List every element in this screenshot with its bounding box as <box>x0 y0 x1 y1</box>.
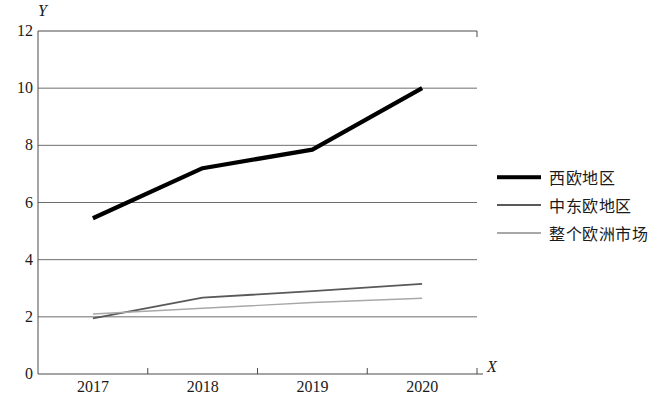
y-axis-title: Y <box>38 2 47 20</box>
y-tick-label-0: 0 <box>0 366 33 382</box>
legend-swatch-series-2 <box>497 198 541 212</box>
x-tick-label-2019: 2019 <box>272 378 352 396</box>
x-tick-label-2017: 2017 <box>53 378 133 396</box>
series-line-1 <box>93 88 422 218</box>
legend-label-series-1: 西欧地区 <box>549 165 615 189</box>
legend-swatch-series-3 <box>497 226 541 240</box>
data-series-layer <box>93 88 422 318</box>
legend-item-1[interactable]: 中东欧地区 <box>497 191 665 219</box>
y-tick-label-2: 2 <box>0 309 33 325</box>
y-tick-label-8: 8 <box>0 137 33 153</box>
legend-label-series-3: 整个欧洲市场 <box>549 221 648 245</box>
gridlines <box>38 88 477 317</box>
x-tick-label-2020: 2020 <box>382 378 462 396</box>
x-axis-title: X <box>487 358 497 376</box>
chart-legend: 西欧地区 中东欧地区 整个欧洲市场 <box>497 163 665 247</box>
y-tick-label-10: 10 <box>0 80 33 96</box>
x-tick-label-2018: 2018 <box>163 378 243 396</box>
y-tick-label-12: 12 <box>0 23 33 39</box>
legend-item-2[interactable]: 整个欧洲市场 <box>497 219 665 247</box>
legend-swatch-series-1 <box>497 170 541 184</box>
legend-label-series-2: 中东欧地区 <box>549 193 632 217</box>
y-tick-label-4: 4 <box>0 252 33 268</box>
y-axis-tick-labels: 121086420 <box>0 0 33 406</box>
x-axis-ticks <box>148 368 477 374</box>
series-line-2 <box>93 284 422 318</box>
legend-item-0[interactable]: 西欧地区 <box>497 163 665 191</box>
y-tick-label-6: 6 <box>0 195 33 211</box>
line-chart: Y X 121086420 2017201820192020 西欧地区 中东欧地… <box>0 0 669 406</box>
series-line-3 <box>93 298 422 314</box>
